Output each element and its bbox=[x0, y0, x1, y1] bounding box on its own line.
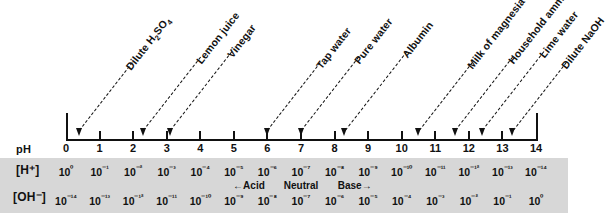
hydroxide-concentration-cell: 10⁻¹³ bbox=[89, 193, 110, 207]
hydrogen-row-label: [H⁺] bbox=[16, 163, 39, 177]
hydrogen-concentration-cell: 10⁻¹³ bbox=[492, 164, 513, 178]
ph-axis-right-cap bbox=[536, 113, 538, 140]
axis-tick-10 bbox=[401, 131, 403, 139]
substance-label: Pure water bbox=[351, 15, 394, 65]
axis-tick-label-11: 11 bbox=[429, 142, 441, 154]
ph-axis-line bbox=[66, 139, 538, 141]
leader-line bbox=[301, 57, 359, 131]
hydrogen-concentration-cell: 10⁻⁵ bbox=[224, 164, 243, 178]
ph-row-label: pH bbox=[16, 143, 31, 155]
hydroxide-concentration-cell: 10⁻⁵ bbox=[359, 193, 378, 207]
hydroxide-concentration-cell: 10⁻⁹ bbox=[224, 193, 243, 207]
leader-arrowhead bbox=[415, 128, 421, 136]
axis-tick-9 bbox=[367, 131, 369, 139]
axis-tick-label-13: 13 bbox=[496, 142, 508, 154]
hydroxide-concentration-cell: 10⁻⁷ bbox=[292, 193, 311, 207]
axis-tick-label-5: 5 bbox=[231, 142, 237, 154]
hydroxide-concentration-cell: 10⁻² bbox=[460, 193, 478, 207]
hydroxide-concentration-cell: 10⁻¹ bbox=[493, 193, 511, 207]
axis-tick-label-6: 6 bbox=[264, 142, 270, 154]
leader-arrowhead bbox=[452, 128, 458, 136]
hydroxide-concentration-cell: 10⁻⁶ bbox=[325, 193, 344, 207]
axis-tick-label-3: 3 bbox=[164, 142, 170, 154]
hydroxide-concentration-cell: 10⁻³ bbox=[426, 193, 444, 207]
axis-tick-label-1: 1 bbox=[97, 142, 103, 154]
ph-axis-left-cap bbox=[66, 113, 68, 140]
hydrogen-concentration-cell: 10⁻⁶ bbox=[258, 164, 277, 178]
leader-line bbox=[513, 62, 567, 130]
hydroxide-concentration-cell: 10⁻¹² bbox=[123, 193, 144, 207]
axis-tick-1 bbox=[99, 131, 101, 139]
leader-arrowhead bbox=[341, 128, 347, 136]
leader-line bbox=[79, 62, 133, 130]
leader-arrowhead bbox=[298, 128, 304, 136]
axis-tick-label-12: 12 bbox=[463, 142, 475, 154]
leader-arrowhead bbox=[509, 128, 515, 136]
hydrogen-concentration-cell: 10⁻¹² bbox=[459, 164, 480, 178]
leader-arrowhead bbox=[140, 128, 146, 136]
leader-arrowhead bbox=[76, 128, 82, 136]
substance-label: Tap water bbox=[313, 25, 353, 71]
hydroxide-row-label: [OH⁻] bbox=[13, 190, 46, 204]
axis-tick-12 bbox=[468, 131, 470, 139]
hydroxide-concentration-cell: 10⁻⁴ bbox=[392, 193, 411, 207]
leader-arrowhead bbox=[264, 128, 270, 136]
axis-tick-label-0: 0 bbox=[63, 142, 69, 154]
leader-line bbox=[455, 57, 513, 131]
substance-label: Albumin bbox=[399, 19, 435, 60]
axis-tick-label-9: 9 bbox=[365, 142, 371, 154]
axis-tick-label-8: 8 bbox=[332, 142, 338, 154]
hydrogen-concentration-cell: 10⁰ bbox=[59, 164, 74, 178]
hydrogen-concentration-cell: 10⁻¹⁰ bbox=[391, 164, 412, 178]
hydrogen-concentration-cell: 10⁻¹ bbox=[90, 164, 108, 178]
annotation-neutral: Neutral bbox=[284, 180, 318, 191]
hydrogen-concentration-cell: 10⁻⁹ bbox=[359, 164, 378, 178]
hydrogen-concentration-cell: 10⁻⁸ bbox=[325, 164, 344, 178]
hydroxide-concentration-cell: 10⁻¹⁴ bbox=[55, 193, 77, 207]
axis-tick-label-10: 10 bbox=[396, 142, 408, 154]
axis-tick-2 bbox=[132, 131, 134, 139]
hydroxide-concentration-cell: 10⁻¹⁰ bbox=[190, 193, 211, 207]
hydrogen-concentration-cell: 10⁻⁷ bbox=[292, 164, 311, 178]
axis-tick-11 bbox=[434, 131, 436, 139]
leader-line bbox=[143, 57, 201, 131]
annotation-base: Base→ bbox=[338, 180, 372, 191]
hydrogen-concentration-cell: 10⁻¹⁴ bbox=[525, 164, 547, 178]
leader-arrowhead bbox=[167, 128, 173, 136]
axis-tick-label-4: 4 bbox=[197, 142, 203, 154]
leader-arrowhead bbox=[479, 128, 485, 136]
axis-tick-4 bbox=[199, 131, 201, 139]
annotation-acid: ←Acid bbox=[233, 180, 265, 191]
axis-tick-13 bbox=[501, 131, 503, 139]
leader-line bbox=[419, 62, 473, 130]
hydrogen-concentration-cell: 10⁻⁴ bbox=[191, 164, 210, 178]
hydrogen-concentration-cell: 10⁻² bbox=[124, 164, 142, 178]
hydrogen-concentration-cell: 10⁻³ bbox=[158, 164, 176, 178]
axis-tick-label-2: 2 bbox=[130, 142, 136, 154]
hydroxide-concentration-cell: 10⁰ bbox=[529, 193, 544, 207]
axis-tick-label-14: 14 bbox=[530, 142, 542, 154]
hydroxide-concentration-cell: 10⁻¹¹ bbox=[156, 193, 177, 207]
substance-label: Dilute H2SO4 bbox=[123, 14, 175, 74]
axis-tick-label-7: 7 bbox=[298, 142, 304, 154]
hydrogen-concentration-cell: 10⁻¹¹ bbox=[425, 164, 446, 178]
leader-line bbox=[267, 62, 321, 130]
axis-tick-5 bbox=[233, 131, 235, 139]
axis-tick-8 bbox=[334, 131, 336, 139]
hydroxide-concentration-cell: 10⁻⁸ bbox=[258, 193, 277, 207]
